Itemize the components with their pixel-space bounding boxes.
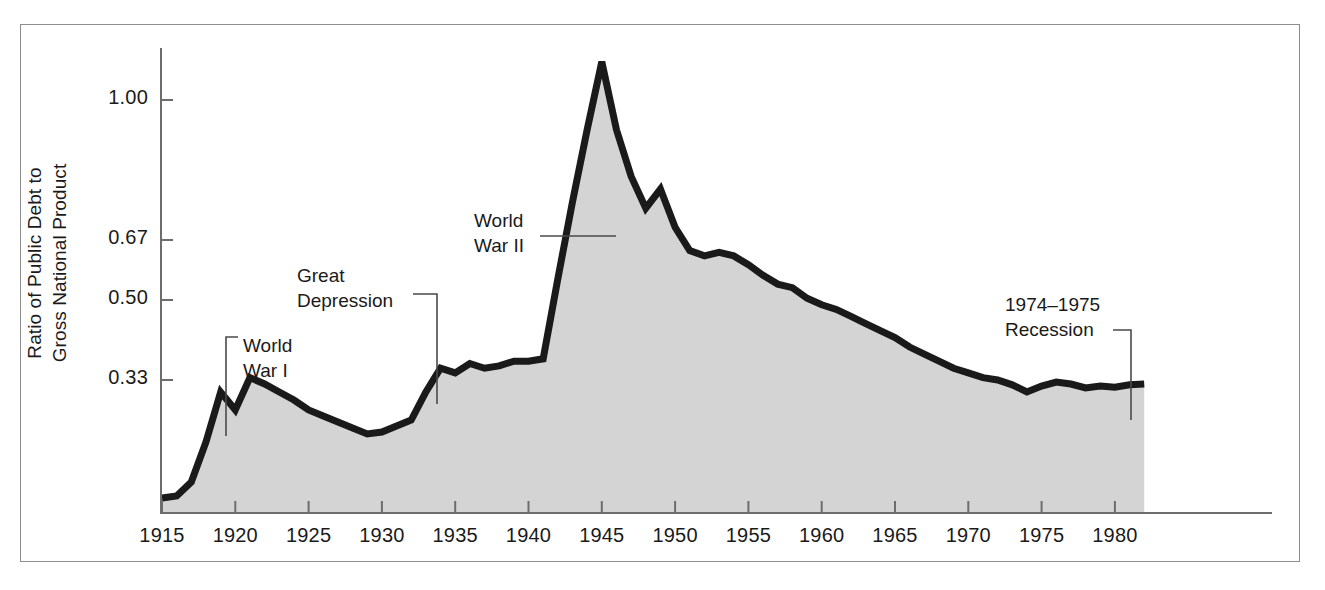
x-tick-label: 1925 xyxy=(269,524,349,547)
annotation-world-war-i: World War I xyxy=(243,333,292,383)
x-tick-label: 1960 xyxy=(782,524,862,547)
y-tick-label: 0.67 xyxy=(68,226,148,249)
x-tick-label: 1915 xyxy=(122,524,202,547)
y-tick-label: 0.50 xyxy=(68,286,148,309)
x-tick-label: 1955 xyxy=(708,524,788,547)
x-tick-label: 1920 xyxy=(195,524,275,547)
x-tick-label: 1935 xyxy=(415,524,495,547)
x-tick-label: 1975 xyxy=(1002,524,1082,547)
y-tick-label: 0.33 xyxy=(68,366,148,389)
figure-container: Ratio of Public Debt to Gross National P… xyxy=(0,0,1325,590)
annotation-world-war-ii: World War II xyxy=(474,208,524,258)
annotation-recession-1974-1975: 1974–1975 Recession xyxy=(1005,292,1100,342)
x-tick-label: 1930 xyxy=(342,524,422,547)
x-tick-label: 1945 xyxy=(562,524,642,547)
x-tick-label: 1965 xyxy=(855,524,935,547)
y-tick-label: 1.00 xyxy=(68,86,148,109)
x-tick-label: 1980 xyxy=(1075,524,1155,547)
annotation-great-depression: Great Depression xyxy=(297,263,393,313)
x-tick-label: 1970 xyxy=(928,524,1008,547)
x-tick-label: 1940 xyxy=(489,524,569,547)
x-tick-label: 1950 xyxy=(635,524,715,547)
chart-plot-area xyxy=(0,0,1325,590)
